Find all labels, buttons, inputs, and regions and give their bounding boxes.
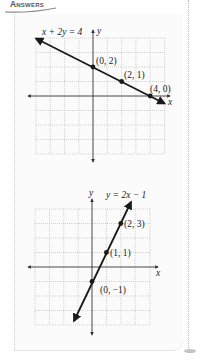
point-0-neg1 (90, 279, 95, 284)
equation-label-2: y = 2x − 1 (105, 190, 146, 200)
point-label-0-neg1: (0, −1) (100, 285, 126, 296)
point-label-1-1: (1, 1) (110, 248, 131, 259)
line-y-eq-2x-minus-1 (74, 202, 131, 321)
graph-2: y = 2x − 1 y x (2, 3) (1, 1) (0, −1) (0, 0, 202, 361)
point-2-3 (118, 221, 123, 226)
point-1-1 (104, 250, 109, 255)
y-axis-label-2: y (88, 188, 94, 198)
point-label-2-3: (2, 3) (124, 219, 145, 230)
x-axis-label-2: x (155, 268, 161, 278)
